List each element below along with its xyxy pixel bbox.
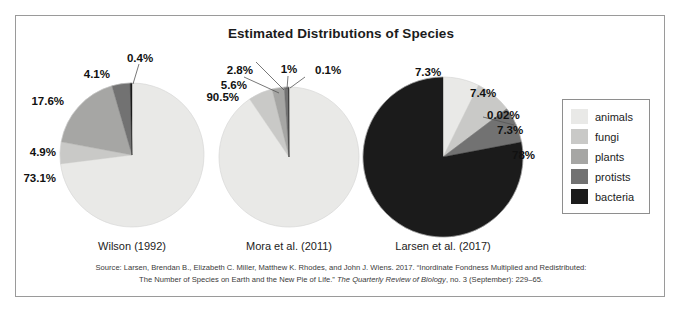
- source-journal-title: The Quarterly Review of Biology: [337, 275, 446, 284]
- legend-label: protists: [595, 171, 630, 183]
- legend-swatch-plants: [571, 149, 588, 164]
- legend-swatch-protists: [571, 169, 588, 184]
- legend-item-plants: plants: [571, 148, 642, 165]
- figure-container: Estimated Distributions of Species 73.1%…: [0, 0, 682, 311]
- legend-item-animals: animals: [571, 108, 642, 125]
- legend-label: fungi: [595, 131, 619, 143]
- legend-swatch-fungi: [571, 129, 588, 144]
- source-line-1: Source: Larsen, Brendan B., Elizabeth C.…: [0, 262, 682, 274]
- legend-swatch-bacteria: [571, 189, 588, 204]
- legend-item-bacteria: bacteria: [571, 188, 642, 205]
- legend-label: plants: [595, 151, 624, 163]
- legend-label: animals: [595, 111, 633, 123]
- source-citation: Source: Larsen, Brendan B., Elizabeth C.…: [0, 262, 682, 285]
- slice-label-animals: 7.3%: [415, 66, 441, 78]
- legend-swatch-animals: [571, 109, 588, 124]
- legend-item-fungi: fungi: [571, 128, 642, 145]
- slice-label-plants: 0.02%: [487, 109, 520, 121]
- source-line-2: The Number of Species on Earth and the N…: [0, 274, 682, 286]
- slice-label-bacteria: 78%: [512, 149, 535, 161]
- slice-label-protists: 7.3%: [497, 124, 523, 136]
- legend: animalsfungiplantsprotistsbacteria: [562, 99, 650, 214]
- legend-item-protists: protists: [571, 168, 642, 185]
- source-line-1-text: Source: Larsen, Brendan B., Elizabeth C.…: [96, 263, 587, 272]
- slice-label-fungi: 7.4%: [470, 87, 496, 99]
- source-line-2-text-a: The Number of Species on Earth and the N…: [139, 275, 337, 284]
- source-line-2-text-b: , no. 3 (September): 229–65.: [446, 275, 543, 284]
- pie-caption-3: Larsen et al. (2017): [395, 240, 490, 252]
- legend-label: bacteria: [595, 191, 634, 203]
